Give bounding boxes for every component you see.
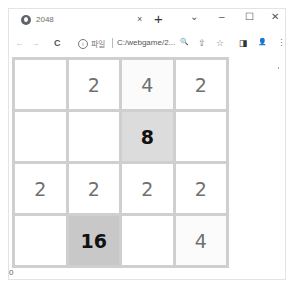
forward-button[interactable]: →: [31, 38, 40, 48]
zoom-icon[interactable]: 🔍: [180, 38, 189, 46]
tile-r1-c2: 8: [122, 112, 173, 161]
url-text[interactable]: C:/webgame/2...: [117, 38, 175, 47]
bookmark-star-icon[interactable]: ☆: [216, 38, 224, 48]
tile-r0-c3: 2: [176, 60, 227, 109]
tile-r3-c0: [15, 216, 66, 265]
tab-2048[interactable]: 2048 ×: [9, 9, 169, 33]
tile-r2-c1: 2: [69, 164, 120, 213]
tile-r3-c2: [122, 216, 173, 265]
address-divider: [112, 38, 113, 48]
tab-close-button[interactable]: ×: [137, 14, 142, 24]
tile-r2-c3: 2: [176, 164, 227, 213]
scheme-label: 파일: [91, 38, 105, 49]
tab-title: 2048: [36, 15, 54, 24]
new-tab-button[interactable]: +: [154, 10, 163, 27]
close-window-button[interactable]: ✕: [271, 11, 279, 22]
tile-r0-c2: 4: [122, 60, 173, 109]
globe-icon: [21, 15, 31, 25]
tile-r3-c3: 4: [176, 216, 227, 265]
browser-toolbar: ← → C i 파일 C:/webgame/2... 🔍 ⇪ ☆ ◨ 👤 ⋮: [9, 33, 285, 55]
share-icon[interactable]: ⇪: [198, 38, 206, 48]
tab-bar: 2048 × + ⌄ – ☐ ✕: [9, 9, 285, 33]
reload-button[interactable]: C: [54, 38, 61, 48]
browser-window: 2048 × + ⌄ – ☐ ✕ ← → C i 파일 C:/webgame/2…: [8, 8, 286, 280]
game-board[interactable]: 2 4 2 8 2 2 2 2 16 4: [12, 57, 229, 268]
profile-icon[interactable]: 👤: [258, 38, 267, 46]
tile-r2-c2: 2: [122, 164, 173, 213]
tab-search-dropdown-icon[interactable]: ⌄: [190, 11, 198, 22]
tile-r1-c0: [15, 112, 66, 161]
tile-r0-c1: 2: [69, 60, 120, 109]
tile-r3-c1: 16: [69, 216, 120, 265]
page-content: 2 4 2 8 2 2 2 2 16 4 0: [9, 55, 285, 281]
tile-r0-c0: [15, 60, 66, 109]
score-text: 0: [9, 268, 13, 277]
back-button[interactable]: ←: [15, 38, 24, 48]
tile-r1-c1: [69, 112, 120, 161]
side-panel-icon[interactable]: ◨: [239, 38, 248, 48]
minimize-button[interactable]: –: [219, 11, 225, 22]
info-icon[interactable]: i: [78, 39, 88, 49]
menu-icon[interactable]: ⋮: [277, 38, 286, 48]
tile-r2-c0: 2: [15, 164, 66, 213]
tile-r1-c3: [176, 112, 227, 161]
scrollbar-indicator[interactable]: [278, 67, 279, 69]
maximize-button[interactable]: ☐: [245, 11, 254, 22]
